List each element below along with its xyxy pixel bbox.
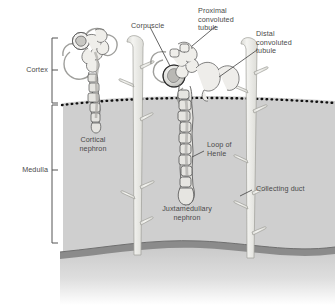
renal-capsule (60, 241, 335, 305)
cortical-corpuscle (72, 32, 89, 49)
nephron-diagram (0, 0, 335, 305)
medulla-region (63, 96, 335, 263)
